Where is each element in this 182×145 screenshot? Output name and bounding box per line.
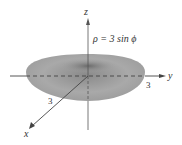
y-axis-label: y — [168, 71, 172, 81]
equation-label: ρ = 3 sin ϕ — [93, 34, 136, 44]
y-axis-arrow — [159, 74, 166, 78]
x-axis-label: x — [24, 129, 28, 139]
torus-diagram — [0, 0, 182, 145]
z-axis-arrow — [86, 18, 90, 25]
x-axis-arrow — [29, 122, 35, 129]
x-tick-label: 3 — [48, 97, 53, 106]
y-tick-label: 3 — [146, 81, 151, 90]
z-axis-label: z — [84, 7, 88, 17]
